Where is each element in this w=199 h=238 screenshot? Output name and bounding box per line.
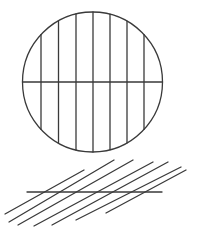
circle-figure: [23, 12, 163, 152]
diagonal-line: [52, 162, 168, 225]
hatch-figure: [5, 160, 186, 226]
diagram-canvas: [0, 0, 199, 238]
diagonal-lines: [5, 160, 186, 226]
